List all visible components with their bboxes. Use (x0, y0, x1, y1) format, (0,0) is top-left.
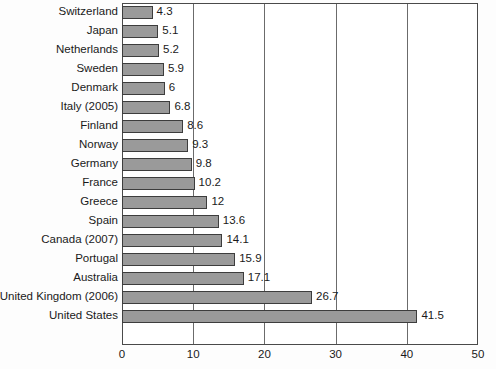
bar-value-label: 10.2 (199, 175, 221, 194)
category-label: Spain (89, 213, 118, 232)
bar-row: Switzerland4.3 (0, 4, 496, 23)
bar-value-label: 4.3 (157, 4, 173, 23)
bar-row: Norway9.3 (0, 137, 496, 156)
bar (122, 44, 159, 57)
bar-row: Spain13.6 (0, 213, 496, 232)
bar-rows: Switzerland4.3Japan5.1Netherlands5.2Swed… (0, 0, 496, 369)
bar-value-label: 14.1 (226, 232, 248, 251)
bar-row: Denmark6 (0, 80, 496, 99)
category-label: Finland (80, 118, 118, 137)
bar-row: Portugal15.9 (0, 251, 496, 270)
bar-value-label: 17.1 (248, 270, 270, 289)
bar-value-label: 26.7 (316, 289, 338, 308)
bar-value-label: 6 (169, 80, 175, 99)
category-label: Sweden (76, 61, 118, 80)
bar-row: United States41.5 (0, 308, 496, 327)
category-label: Denmark (71, 80, 118, 99)
bar-row: Greece12 (0, 194, 496, 213)
bar (122, 272, 244, 285)
bar-value-label: 41.5 (421, 308, 443, 327)
bar (122, 177, 195, 190)
category-label: France (82, 175, 118, 194)
bar (122, 25, 158, 38)
bar (122, 158, 192, 171)
category-label: Greece (80, 194, 118, 213)
x-tick-label-0: 0 (107, 348, 137, 360)
category-label: United States (49, 308, 118, 327)
bar-value-label: 9.8 (196, 156, 212, 175)
category-label: Italy (2005) (60, 99, 118, 118)
bar-row: United Kingdom (2006)26.7 (0, 289, 496, 308)
category-label: Germany (71, 156, 118, 175)
bar-row: Sweden5.9 (0, 61, 496, 80)
bar (122, 310, 417, 323)
x-tick-label-20: 20 (249, 348, 279, 360)
category-label: Portugal (75, 251, 118, 270)
bar-row: France10.2 (0, 175, 496, 194)
x-tick-label-30: 30 (321, 348, 351, 360)
bar (122, 253, 235, 266)
bar (122, 120, 183, 133)
bar-row: Germany9.8 (0, 156, 496, 175)
bar-row: Australia17.1 (0, 270, 496, 289)
bar-value-label: 8.6 (187, 118, 203, 137)
bar-value-label: 12 (211, 194, 224, 213)
bar (122, 196, 207, 209)
bar-row: Japan5.1 (0, 23, 496, 42)
bar (122, 101, 170, 114)
category-label: Netherlands (56, 42, 118, 61)
bar (122, 291, 312, 304)
category-label: Norway (79, 137, 118, 156)
bar-row: Canada (2007)14.1 (0, 232, 496, 251)
bar-value-label: 15.9 (239, 251, 261, 270)
x-tick-label-10: 10 (178, 348, 208, 360)
category-label: Australia (73, 270, 118, 289)
bar (122, 82, 165, 95)
bar-value-label: 5.1 (162, 23, 178, 42)
category-label: Japan (87, 23, 118, 42)
x-tick-label-40: 40 (392, 348, 422, 360)
bar (122, 234, 222, 247)
bar-value-label: 9.3 (192, 137, 208, 156)
bar (122, 63, 164, 76)
bar-row: Italy (2005)6.8 (0, 99, 496, 118)
bar-value-label: 13.6 (223, 213, 245, 232)
bar (122, 139, 188, 152)
bar (122, 215, 219, 228)
bar-chart: Switzerland4.3Japan5.1Netherlands5.2Swed… (0, 0, 496, 369)
bar-row: Netherlands5.2 (0, 42, 496, 61)
bar-value-label: 6.8 (174, 99, 190, 118)
category-label: Switzerland (59, 4, 118, 23)
bar (122, 6, 153, 19)
bar-value-label: 5.2 (163, 42, 179, 61)
bar-row: Finland8.6 (0, 118, 496, 137)
x-tick-label-50: 50 (463, 348, 493, 360)
category-label: Canada (2007) (41, 232, 118, 251)
bar-value-label: 5.9 (168, 61, 184, 80)
category-label: United Kingdom (2006) (0, 289, 118, 308)
